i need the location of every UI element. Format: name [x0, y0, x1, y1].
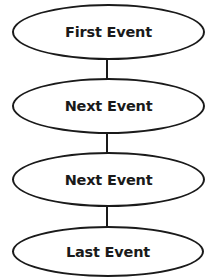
node-first-event: First Event [12, 4, 205, 60]
node-label: First Event [65, 24, 152, 40]
node-label: Next Event [65, 172, 153, 188]
connector-line [106, 59, 108, 80]
flowchart-diagram: First Event Next Event Next Event Last E… [0, 0, 220, 278]
connector-line [106, 206, 108, 227]
node-label: Next Event [65, 98, 153, 114]
node-label: Last Event [66, 244, 150, 260]
node-next-event-2: Next Event [12, 152, 205, 207]
node-last-event: Last Event [12, 226, 204, 277]
node-next-event-1: Next Event [12, 78, 205, 134]
connector-line [106, 133, 108, 154]
